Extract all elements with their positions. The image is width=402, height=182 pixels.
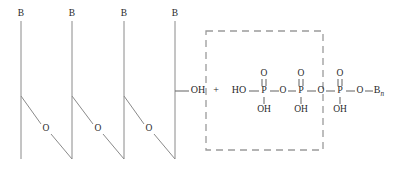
linker-diagonal-3a [124,96,144,124]
phosphorus-3-hydroxyl: OH [333,104,347,114]
linker-diagonal-2b [103,134,124,159]
base-label-2: B [69,8,75,18]
bridging-oxygen-2: O [318,85,325,95]
phosphorus-1-hydroxyl: OH [257,104,271,114]
bridging-oxygen-3: O [357,85,364,95]
linker-diagonal-1b [51,134,72,159]
linker-diagonal-2a [72,96,93,124]
linker-diagonal-3b [154,134,175,159]
linker-oxygen-3: O [146,123,153,133]
double-bond-oxygen-3: O [337,68,344,78]
linker-oxygen-1: O [43,123,50,133]
linker-diagonal-1a [21,96,41,124]
base-label-3: B [121,8,127,18]
reaction-scheme-svg: B B B B O O O OH + HO P O OH O P O OH [0,0,402,182]
terminal-base-subscript: n [381,89,385,97]
base-label-4: B [172,8,178,18]
triphosphate-leading-hydroxyl: HO [232,84,246,95]
bridging-oxygen-1: O [280,85,287,95]
reaction-plus-symbol: + [213,84,219,95]
phosphorus-2-hydroxyl: OH [294,104,308,114]
chemical-reaction-figure: B B B B O O O OH + HO P O OH O P O OH [0,0,402,182]
triphosphate-terminal-base: Bn [374,84,385,97]
terminal-hydroxyl-label: OH [191,84,205,95]
linker-oxygen-2: O [95,123,102,133]
base-label-1: B [18,8,24,18]
double-bond-oxygen-1: O [261,68,268,78]
double-bond-oxygen-2: O [298,68,305,78]
